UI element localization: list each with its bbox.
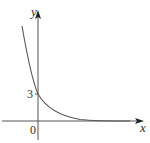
origin-label: 0 [30, 124, 36, 136]
graph-canvas [0, 0, 150, 143]
x-axis-label: x [140, 121, 146, 134]
y-axis-label: y [31, 5, 37, 18]
y-tick-label-3: 3 [27, 88, 33, 100]
